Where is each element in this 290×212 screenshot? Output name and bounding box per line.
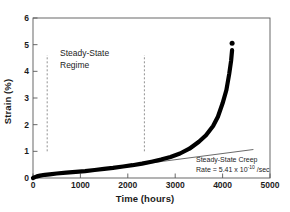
creep-rate-exponent: -10 [248,163,255,169]
y-tick-label-6: 6 [7,13,29,23]
y-axis-title: Strain (%) [2,67,13,137]
creep-rate-prefix: Rate = 5.41 x 10 [196,166,248,173]
x-axis-title: Time (hours) [0,193,290,204]
steady-state-regime-line2: Regime [60,60,89,70]
x-tick-label-3000: 3000 [155,180,195,190]
steady-state-regime-line1: Steady-State [60,48,109,58]
creep-rate-suffix: /sec [255,166,270,173]
x-tick-label-0: 0 [13,180,53,190]
plot-frame [33,18,270,178]
steady-state-regime-annotation: Steady-State Regime [60,48,109,71]
y-axis-ticks [33,18,38,178]
creep-curve-figure: 0 1 2 3 4 5 6 0 1000 2000 3000 4000 5000… [0,0,290,212]
x-tick-label-5000: 5000 [250,180,290,190]
x-tick-label-1000: 1000 [60,180,100,190]
creep-rate-line2: Rate = 5.41 x 10-10 /sec [196,165,270,175]
x-tick-label-2000: 2000 [108,180,148,190]
x-tick-label-4000: 4000 [203,180,243,190]
y-tick-label-1: 1 [7,146,29,156]
creep-rate-line1: Steady-State Creep [196,156,257,163]
steady-state-creep-rate-annotation: Steady-State Creep Rate = 5.41 x 10-10 /… [196,155,270,174]
rupture-point-marker [230,41,235,46]
y-tick-label-5: 5 [7,40,29,50]
